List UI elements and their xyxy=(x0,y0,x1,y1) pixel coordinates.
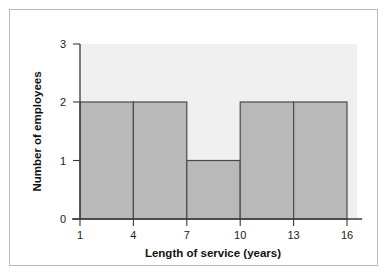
y-axis-ticks xyxy=(73,44,80,219)
x-axis-ticks xyxy=(80,219,347,226)
bar-7-10[interactable] xyxy=(187,161,240,220)
bar-4-7[interactable] xyxy=(133,102,186,219)
y-tick-label-3: 3 xyxy=(60,38,66,50)
x-tick-label-16: 16 xyxy=(341,229,353,241)
figure-card: 3 2 1 0 1 4 7 10 13 16 Length of service… xyxy=(9,9,378,266)
x-tick-label-10: 10 xyxy=(234,229,246,241)
x-tick-label-4: 4 xyxy=(130,229,136,241)
x-axis-title: Length of service (years) xyxy=(145,247,281,259)
x-tick-label-1: 1 xyxy=(77,229,83,241)
bar-10-13[interactable] xyxy=(240,102,293,219)
y-axis-title: Number of employees xyxy=(31,71,43,191)
y-tick-label-0: 0 xyxy=(60,213,66,225)
bar-13-16[interactable] xyxy=(294,102,347,219)
x-tick-label-13: 13 xyxy=(287,229,299,241)
histogram-chart: 3 2 1 0 1 4 7 10 13 16 Length of service… xyxy=(10,10,377,265)
bar-1-4[interactable] xyxy=(80,102,133,219)
x-tick-label-7: 7 xyxy=(184,229,190,241)
y-tick-label-2: 2 xyxy=(60,96,66,108)
y-tick-label-1: 1 xyxy=(60,155,66,167)
